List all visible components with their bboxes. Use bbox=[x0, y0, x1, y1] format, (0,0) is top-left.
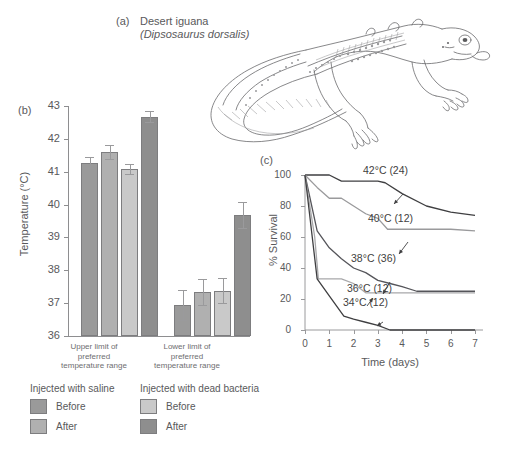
panel-c-x-axis-label: Time (days) bbox=[310, 356, 470, 368]
error-bar-cap-top bbox=[178, 290, 187, 291]
panel-b-y-tick-label: 43 bbox=[42, 99, 60, 111]
panel-c-y-tick-label: 40 bbox=[269, 262, 291, 273]
panel-a-tag: (a) bbox=[116, 15, 140, 28]
panel-b-plot-area bbox=[69, 106, 249, 336]
annotation-arrowhead bbox=[377, 322, 381, 326]
panel-b-group-label: Upper limit ofpreferredtemperature range bbox=[47, 342, 141, 371]
panel-b-bar-chart: (b) Temperature (°C) 4342414039383736 Up… bbox=[0, 96, 262, 378]
panel-c-y-tick-label: 0 bbox=[269, 324, 291, 335]
survival-curve bbox=[305, 175, 475, 291]
legend-label: Before bbox=[56, 401, 85, 412]
bar bbox=[101, 152, 118, 336]
panel-b-y-tick-label: 39 bbox=[42, 230, 60, 242]
error-bar bbox=[110, 145, 111, 159]
legend-label: Before bbox=[166, 401, 195, 412]
legend-swatch bbox=[140, 419, 157, 434]
legend-column: Injected with dead bacteriaBeforeAfter bbox=[140, 383, 259, 439]
curve-annotation-label: 40°C (12) bbox=[368, 212, 413, 224]
panel-b-y-tick-label: 40 bbox=[42, 198, 60, 210]
figure-root: (a)Desert iguana (Dipsosaurus dorsalis) bbox=[0, 0, 514, 459]
panel-c-survival-chart: (c) % Survival Time (days) 1008060402000… bbox=[255, 152, 505, 387]
legend-column-title: Injected with saline bbox=[30, 383, 115, 394]
error-bar bbox=[150, 111, 151, 122]
panel-b-group-label: Lower limit ofpreferredtemperature range bbox=[140, 342, 234, 371]
chart-legend: Injected with salineBeforeAfterInjected … bbox=[30, 383, 300, 443]
panel-c-y-tick-label: 80 bbox=[269, 200, 291, 211]
bar bbox=[141, 117, 158, 336]
panel-c-y-tick-label: 60 bbox=[269, 231, 291, 242]
panel-c-y-tick-label: 20 bbox=[269, 293, 291, 304]
panel-b-y-tick-label: 38 bbox=[42, 263, 60, 275]
error-bar-cap-bottom bbox=[125, 174, 134, 175]
legend-label: After bbox=[166, 421, 187, 432]
error-bar bbox=[90, 157, 91, 169]
error-bar-cap-bottom bbox=[178, 320, 187, 321]
error-bar-cap-top bbox=[105, 145, 114, 146]
error-bar-cap-top bbox=[145, 111, 154, 112]
curve-annotation-label: 36°C (12) bbox=[347, 282, 392, 294]
survival-curve bbox=[305, 175, 475, 215]
error-bar-cap-bottom bbox=[145, 122, 154, 123]
error-bar-cap-bottom bbox=[238, 228, 247, 229]
error-bar-cap-top bbox=[198, 279, 207, 280]
error-bar bbox=[243, 202, 244, 228]
legend-item: Before bbox=[140, 399, 259, 414]
panel-b-x-axis-line bbox=[68, 336, 250, 337]
legend-item: After bbox=[30, 419, 115, 434]
panel-b-tag: (b) bbox=[18, 104, 31, 116]
legend-item: Before bbox=[30, 399, 115, 414]
error-bar-cap-bottom bbox=[85, 168, 94, 169]
bar bbox=[121, 169, 138, 336]
error-bar bbox=[183, 290, 184, 320]
panel-b-y-tick-label: 37 bbox=[42, 296, 60, 308]
legend-item: After bbox=[140, 419, 259, 434]
legend-swatch bbox=[140, 399, 157, 414]
panel-b-y-axis-label: Temperature (°C) bbox=[18, 134, 30, 294]
curve-annotation-label: 42°C (24) bbox=[363, 164, 408, 176]
panel-b-y-tick-label: 42 bbox=[42, 132, 60, 144]
legend-swatch bbox=[30, 399, 47, 414]
error-bar-cap-top bbox=[125, 164, 134, 165]
bar bbox=[81, 163, 98, 336]
annotation-arrowhead bbox=[399, 250, 403, 254]
error-bar bbox=[130, 164, 131, 174]
legend-label: After bbox=[56, 421, 77, 432]
panel-b-y-tick-label: 36 bbox=[42, 329, 60, 341]
curve-annotation-label: 34°C (12) bbox=[343, 296, 388, 308]
panel-c-y-tick-label: 100 bbox=[269, 169, 291, 180]
error-bar-cap-bottom bbox=[105, 159, 114, 160]
legend-column-title: Injected with dead bacteria bbox=[140, 383, 259, 394]
error-bar bbox=[203, 279, 204, 305]
curve-annotation-label: 38°C (36) bbox=[351, 252, 396, 264]
error-bar-cap-top bbox=[218, 278, 227, 279]
error-bar-cap-bottom bbox=[198, 305, 207, 306]
panel-b-y-tick-label: 41 bbox=[42, 165, 60, 177]
error-bar-cap-top bbox=[85, 157, 94, 158]
bar bbox=[234, 215, 251, 336]
error-bar bbox=[223, 278, 224, 303]
panel-c-tag: (c) bbox=[260, 154, 273, 166]
legend-swatch bbox=[30, 419, 47, 434]
legend-column: Injected with salineBeforeAfter bbox=[30, 383, 115, 439]
error-bar-cap-bottom bbox=[218, 303, 227, 304]
survival-curve bbox=[305, 175, 475, 293]
error-bar-cap-top bbox=[238, 202, 247, 203]
